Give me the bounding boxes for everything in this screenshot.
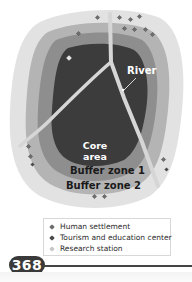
- page-footer-shade: [0, 272, 192, 282]
- river-label: River: [127, 66, 156, 76]
- legend-item-tourism-center: Tourism and education center: [50, 232, 170, 243]
- tourism-marker-icon: [49, 235, 55, 241]
- research-marker-icon: [49, 246, 55, 252]
- core-area-label: Core area: [80, 140, 110, 162]
- legend-label: Human settlement: [60, 222, 130, 231]
- legend-label: Tourism and education center: [60, 233, 172, 242]
- core-label-line2: area: [80, 151, 110, 162]
- zone-map: [0, 0, 192, 210]
- settlement-marker-icon: [49, 224, 55, 230]
- core-label-line1: Core: [80, 140, 110, 151]
- buffer-zone-1-label: Buffer zone 1: [70, 166, 145, 176]
- buffer-zone-2-label: Buffer zone 2: [66, 181, 141, 191]
- legend-item-research-station: Research station: [50, 243, 170, 254]
- legend-item-human-settlement: Human settlement: [50, 221, 170, 232]
- legend: Human settlement Tourism and education c…: [43, 218, 171, 256]
- legend-label: Research station: [60, 244, 123, 253]
- page-rule-divider: [44, 265, 192, 267]
- reserve-zoning-diagram: River Core area Buffer zone 1 Buffer zon…: [0, 0, 192, 210]
